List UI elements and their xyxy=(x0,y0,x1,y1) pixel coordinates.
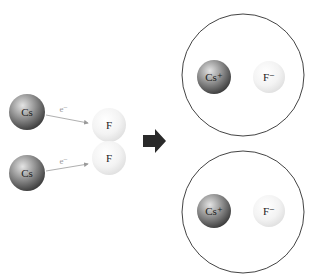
anion-label-1: F⁻ xyxy=(263,71,275,83)
fluoride-anion-1: F⁻ xyxy=(253,61,285,93)
fluorine-label-1: F xyxy=(106,119,112,131)
ionic-bond-diagram: Cs Cs F F e⁻ e⁻ Cs⁺ xyxy=(0,0,317,280)
right-arrow-icon xyxy=(143,129,166,153)
ion-pair-2: Cs⁺ F⁻ xyxy=(182,151,304,273)
electron-label-2: e⁻ xyxy=(60,156,69,166)
electron-transfer-2: e⁻ xyxy=(46,156,88,171)
cesium-atom-2: Cs xyxy=(9,155,45,191)
electron-transfer-1: e⁻ xyxy=(46,104,88,123)
cesium-label-1: Cs xyxy=(21,106,33,118)
cesium-cation-2: Cs⁺ xyxy=(197,194,231,228)
electron-label-1: e⁻ xyxy=(60,104,69,114)
fluoride-anion-2: F⁻ xyxy=(253,195,285,227)
cation-label-1: Cs⁺ xyxy=(205,71,223,83)
electron-arrow-icon xyxy=(46,115,88,123)
fluorine-atom-1: F xyxy=(92,108,126,142)
cesium-atom-1: Cs xyxy=(9,94,45,130)
fluorine-label-2: F xyxy=(106,152,112,164)
fluorine-atom-2: F xyxy=(92,141,126,175)
cesium-cation-1: Cs⁺ xyxy=(197,60,231,94)
left-atoms-group: Cs Cs F F e⁻ e⁻ xyxy=(9,94,126,191)
anion-label-2: F⁻ xyxy=(263,205,275,217)
ion-pair-1: Cs⁺ F⁻ xyxy=(182,14,304,136)
cesium-label-2: Cs xyxy=(21,167,33,179)
cation-label-2: Cs⁺ xyxy=(205,205,223,217)
